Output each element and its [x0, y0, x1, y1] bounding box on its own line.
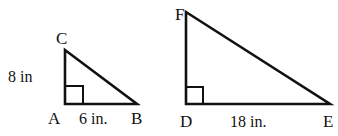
side-label-de: 18 in. — [230, 113, 266, 130]
vertex-label-a: A — [48, 109, 61, 128]
vertex-label-f: F — [175, 5, 184, 24]
triangle-def: F D E 18 in. — [175, 5, 333, 131]
right-angle-marker-d — [186, 87, 203, 104]
vertex-label-b: B — [131, 109, 142, 128]
similar-triangles-diagram: C A B 8 in 6 in. F D E 18 in. — [0, 0, 338, 136]
side-label-ac: 8 in — [8, 68, 32, 85]
vertex-label-e: E — [323, 112, 333, 131]
triangle-def-outline — [186, 12, 330, 104]
vertex-label-d: D — [180, 112, 192, 131]
triangle-abc: C A B 8 in 6 in. — [8, 29, 142, 128]
side-label-ab: 6 in. — [79, 110, 107, 127]
vertex-label-c: C — [56, 29, 67, 48]
right-angle-marker-a — [65, 86, 83, 104]
triangle-abc-outline — [65, 50, 137, 104]
